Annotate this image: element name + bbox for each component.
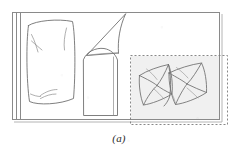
figure-panel: (a) bbox=[0, 0, 238, 160]
left-pillow bbox=[27, 20, 75, 104]
figure-caption: (a) bbox=[0, 132, 238, 144]
center-cushion bbox=[84, 48, 118, 115]
